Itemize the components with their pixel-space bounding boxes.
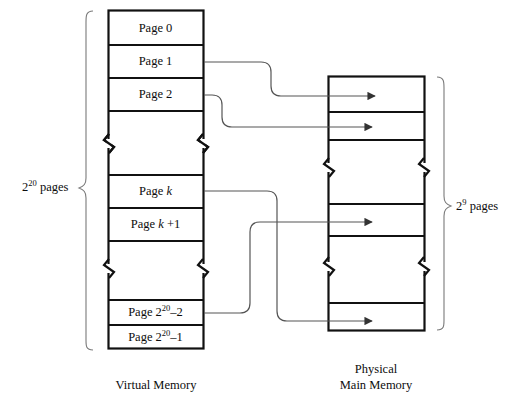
diagram-svg (0, 0, 520, 418)
virtual-memory-outline (109, 11, 204, 349)
virtual-memory-caption: Virtual Memory (105, 378, 207, 394)
physical-memory-brace (437, 77, 451, 330)
virtual-memory-count-label: 220 pages (22, 181, 68, 194)
figure-canvas: Page 0 Page 1 Page 2 Page k Page k +1 Pa… (0, 0, 520, 418)
physical-memory-count-label: 29 pages (456, 200, 498, 213)
physical-memory-caption: Physical Main Memory (325, 362, 427, 393)
physical-memory-box (324, 77, 429, 331)
virtual-memory-box (104, 11, 208, 349)
virtual-memory-brace (79, 11, 93, 350)
